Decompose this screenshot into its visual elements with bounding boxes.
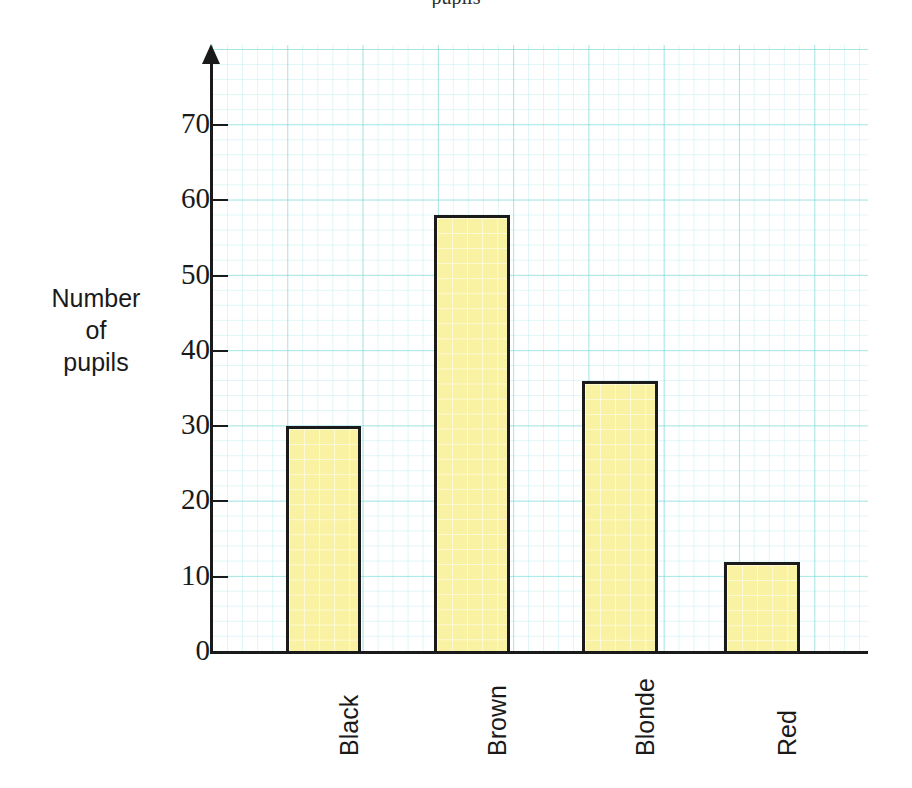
y-tick-mark xyxy=(212,199,228,201)
bar-red xyxy=(724,562,800,654)
bar-blonde xyxy=(582,381,658,654)
y-tick-mark xyxy=(212,425,228,427)
y-tick-label: 0 xyxy=(146,636,210,665)
y-tick-label: 70 xyxy=(146,109,210,138)
x-label-brown: Brown xyxy=(483,685,512,756)
x-label-black: Black xyxy=(335,695,364,756)
y-tick-mark xyxy=(212,500,228,502)
y-tick-mark xyxy=(212,350,228,352)
y-tick-label: 40 xyxy=(146,335,210,364)
y-tick-label: 30 xyxy=(146,410,210,439)
y-axis-ticks: 010203040506070 xyxy=(0,0,210,788)
bar-brown xyxy=(434,215,510,654)
y-tick-mark xyxy=(212,576,228,578)
bar-black xyxy=(286,426,361,654)
y-tick-mark xyxy=(212,124,228,126)
x-label-red: Red xyxy=(773,710,802,756)
y-tick-label: 10 xyxy=(146,561,210,590)
y-tick-label: 50 xyxy=(146,260,210,289)
x-label-blonde: Blonde xyxy=(631,678,660,756)
y-tick-label: 60 xyxy=(146,184,210,213)
y-tick-label: 20 xyxy=(146,485,210,514)
bar-chart-figure: pupils Number of pupils 010203040506070 … xyxy=(0,0,912,788)
y-axis-line xyxy=(210,60,213,654)
y-tick-mark xyxy=(212,275,228,277)
